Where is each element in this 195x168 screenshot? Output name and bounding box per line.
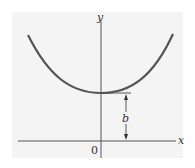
y-axis-label: y (96, 11, 104, 24)
b-label: b (122, 112, 129, 125)
diagram-canvas: b 0 x y (0, 0, 195, 168)
origin-label: 0 (91, 144, 98, 157)
x-axis-label: x (178, 134, 185, 147)
diagram-panel (12, 12, 183, 158)
catenary-diagram: b 0 x y (0, 0, 195, 168)
